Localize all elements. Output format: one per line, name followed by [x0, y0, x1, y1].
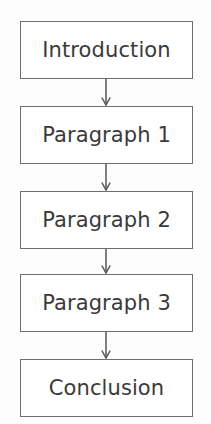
arrow-p1-to-p2: [96, 164, 116, 191]
node-paragraph-2[interactable]: Paragraph 2: [20, 191, 193, 249]
arrowhead-icon: [102, 98, 110, 106]
node-conclusion[interactable]: Conclusion: [20, 359, 193, 417]
node-label: Introduction: [42, 40, 170, 61]
arrowhead-icon: [102, 183, 110, 191]
flowchart-canvas: IntroductionParagraph 1Paragraph 2Paragr…: [0, 0, 211, 424]
node-label: Conclusion: [49, 378, 164, 399]
node-label: Paragraph 3: [42, 293, 171, 314]
node-introduction[interactable]: Introduction: [20, 21, 193, 79]
arrow-p3-to-conclusion: [96, 332, 116, 359]
node-paragraph-1[interactable]: Paragraph 1: [20, 106, 193, 164]
arrow-p2-to-p3: [96, 249, 116, 274]
node-label: Paragraph 1: [42, 125, 171, 146]
arrow-intro-to-p1: [96, 79, 116, 106]
node-paragraph-3[interactable]: Paragraph 3: [20, 274, 193, 332]
arrowhead-icon: [102, 351, 110, 359]
node-label: Paragraph 2: [42, 210, 171, 231]
arrowhead-icon: [102, 266, 110, 274]
